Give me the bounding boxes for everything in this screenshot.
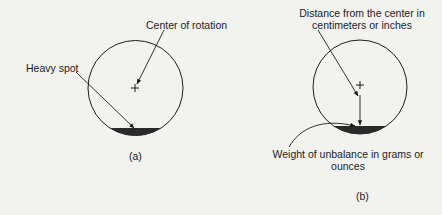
heavy-spot-b xyxy=(300,126,420,138)
caption-b: (b) xyxy=(356,190,369,202)
distance-pointer-arrow xyxy=(318,30,358,96)
center-mark-a xyxy=(131,84,139,92)
label-distance-line2: centimeters or inches xyxy=(292,19,432,31)
label-weight-line2: ounces xyxy=(262,160,434,172)
label-heavy-spot: Heavy spot xyxy=(26,62,79,74)
label-weight-of-unbalance: Weight of unbalance in grams or ounces xyxy=(262,148,434,172)
label-center-of-rotation: Center of rotation xyxy=(146,19,227,31)
label-weight-line1: Weight of unbalance in grams or xyxy=(262,148,434,160)
caption-a: (a) xyxy=(129,150,142,162)
center-of-rotation-arrow xyxy=(137,30,164,84)
label-distance-from-center: Distance from the center in centimeters … xyxy=(292,7,432,31)
diagram-canvas xyxy=(0,0,442,215)
heavy-spot-arrow xyxy=(76,72,134,128)
label-distance-line1: Distance from the center in xyxy=(292,7,432,19)
diagram-a xyxy=(76,30,200,138)
center-mark-b xyxy=(356,81,364,89)
diagram-b xyxy=(289,30,420,147)
heavy-spot-a xyxy=(80,128,200,138)
